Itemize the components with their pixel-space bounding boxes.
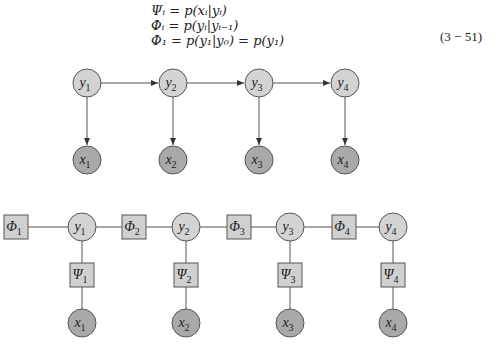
graph-diagram: y1y2y3y4x1x2x3x4 Φ1Φ2Φ3Φ4y1y2y3y4Ψ1Ψ2Ψ3Ψ… [0,0,501,351]
factor-graph: Φ1Φ2Φ3Φ4y1y2y3y4Ψ1Ψ2Ψ3Ψ4x1x2x3x4 [4,213,407,337]
hmm-graph: y1y2y3y4x1x2x3x4 [73,69,359,174]
